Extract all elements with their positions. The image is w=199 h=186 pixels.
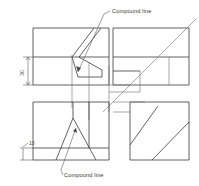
dimension-value-30: 30 (19, 70, 25, 76)
label-top-leader-group (76, 11, 110, 72)
label-top-leader-line (78, 14, 104, 72)
connector-lines (109, 85, 140, 92)
view-top-left (33, 28, 109, 85)
top-left-oblique-2 (79, 28, 101, 57)
label-top-leader-hook (104, 11, 110, 14)
label-bottom-text: Compound line (64, 172, 104, 178)
bottom-left-oblique-left (56, 118, 73, 160)
dim10-leader (23, 143, 28, 147)
view-bottom-right (113, 102, 189, 160)
miter-line-group (103, 19, 196, 112)
bottom-left-outline (33, 102, 109, 160)
bottom-right-oblique-1 (130, 106, 158, 145)
label-bottom-leader-hook (61, 170, 63, 175)
top-left-outline (33, 28, 109, 85)
dimension-value-10: 10 (29, 140, 35, 146)
technical-drawing-sheet: 30 10 Compound line Compound line (0, 0, 199, 186)
label-bottom-leader-line (61, 128, 76, 170)
top-left-vee-right (79, 57, 102, 70)
projection-lines-left (72, 55, 109, 120)
label-bottom-arrowhead (73, 128, 77, 133)
label-top-text: Compound line (112, 8, 152, 14)
bottom-right-oblique-2 (152, 122, 189, 160)
label-bottom-leader-group (61, 128, 77, 175)
view-bottom-left (33, 102, 109, 160)
bottom-left-oblique-right (73, 118, 96, 160)
miter-line-45 (103, 19, 196, 112)
dimension-10-group: 10 (20, 140, 35, 160)
top-left-oblique-1 (72, 28, 94, 57)
drawing-canvas: 30 10 Compound line Compound line (0, 0, 199, 186)
dimension-30-group: 30 (19, 57, 33, 85)
